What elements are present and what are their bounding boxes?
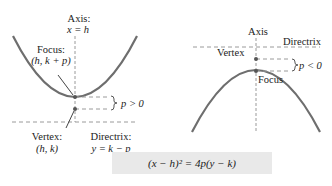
- left-directrix-title: Directrix:: [91, 131, 132, 142]
- left-vertex-coords: (h, k): [36, 143, 59, 155]
- left-p-label: p > 0: [120, 98, 145, 109]
- left-vertex-title: Vertex:: [32, 131, 62, 142]
- right-focus-title: Focus: [258, 74, 283, 85]
- left-vertex-point: [73, 107, 77, 111]
- right-p-brace: [292, 59, 298, 71]
- standard-form-equation: (x − h)² = 4p(y − k): [112, 152, 272, 174]
- right-vertex-title: Vertex: [217, 47, 245, 58]
- left-p-brace: [111, 96, 117, 110]
- right-vertex-point: [254, 57, 258, 61]
- parabola-diagram: Axis: x = h Focus: (h, k + p) p > 0 Vert…: [0, 0, 332, 186]
- right-focus-point: [254, 69, 258, 73]
- left-focus-point: [73, 95, 77, 99]
- left-focus-pointer: [58, 75, 73, 95]
- right-directrix-title: Directrix: [283, 36, 322, 47]
- left-focus-coords: (h, k + p): [31, 55, 71, 67]
- left-focus-title: Focus:: [37, 44, 65, 55]
- right-axis-title: Axis: [248, 26, 268, 37]
- right-p-label: p < 0: [298, 60, 323, 71]
- left-axis-title: Axis:: [68, 13, 91, 24]
- left-vertex-pointer: [66, 111, 74, 128]
- left-axis-equation: x = h: [66, 24, 89, 35]
